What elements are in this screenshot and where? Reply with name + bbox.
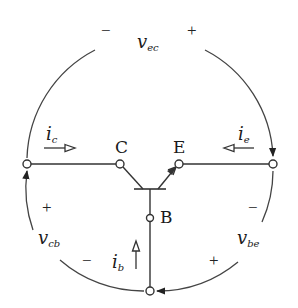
ib-label: ib [112, 253, 124, 271]
ib-arrow-icon [133, 241, 140, 251]
vcb-minus-sign: − [82, 252, 92, 269]
vbe-label: vbe [237, 229, 260, 247]
bjt-diagram: − vec + ic ie ib C E B + vcb − − vbe + [0, 0, 298, 308]
vcb-arc-upper [26, 171, 33, 230]
vec-arc [27, 50, 95, 158]
vcb-plus-sign: + [42, 199, 52, 216]
ie-arrow-icon [224, 145, 234, 152]
vbe-plus-sign: + [209, 252, 219, 269]
left-node [23, 160, 31, 168]
vbe-arc-upper [262, 171, 273, 222]
base-terminal [147, 215, 154, 222]
vcb-arc-lower [60, 260, 144, 291]
vbe-minus-sign: − [248, 199, 258, 216]
base-label: B [160, 209, 173, 226]
emitter-label: E [173, 139, 185, 156]
bottom-node [146, 287, 154, 295]
collector-lead [123, 167, 143, 189]
vec-label: vec [137, 33, 159, 51]
vbe-arc-lower [157, 262, 238, 291]
ic-label: ic [46, 125, 57, 143]
ic-arrow-icon [65, 145, 75, 152]
collector-terminal [116, 160, 124, 168]
ie-label: ie [238, 125, 250, 143]
vcb-label: vcb [38, 229, 60, 247]
right-node [269, 160, 277, 168]
vec-minus-sign: − [101, 22, 111, 39]
vec-plus-sign: + [187, 22, 197, 39]
emitter-terminal [175, 160, 183, 168]
collector-label: C [115, 139, 128, 156]
